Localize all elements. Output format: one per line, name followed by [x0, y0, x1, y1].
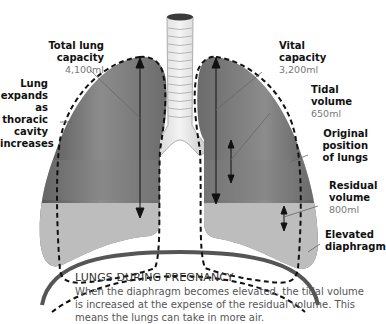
label-line: Original	[323, 128, 368, 139]
label-line: Residual	[329, 180, 377, 191]
left-lung	[30, 50, 170, 283]
residual-volume-label: Residual volume 800ml	[329, 180, 372, 216]
label-line: capacity	[279, 52, 326, 63]
label-line: position	[322, 140, 368, 151]
caption-body: When the diaphragm becomes elevated, the…	[75, 285, 375, 324]
vital-capacity-label: Vital capacity 3,200ml	[279, 40, 359, 76]
residual-volume-value: 800ml	[329, 204, 372, 216]
total-lung-capacity-value: 4,100ml	[20, 64, 104, 76]
label-line: expands as	[1, 90, 48, 113]
caption-title: LUNGS DURING PREGNANCY	[75, 271, 375, 285]
vital-capacity-value: 3,200ml	[279, 64, 359, 76]
label-line: Vital	[279, 40, 305, 51]
label-line: increases	[0, 138, 54, 149]
label-line: Lung	[20, 78, 48, 89]
original-position-label: Original position of lungs	[310, 128, 368, 164]
label-line: diaphragm	[325, 241, 386, 252]
label-line: Elevated	[325, 229, 374, 240]
label-line: Tidal	[311, 84, 339, 95]
tidal-volume-label: Tidal volume 650ml	[311, 84, 371, 120]
label-line: of lungs	[323, 152, 368, 163]
label-line: capacity	[57, 52, 104, 63]
label-line: thoracic	[2, 114, 48, 125]
label-line: volume	[329, 192, 370, 203]
total-lung-capacity-label: Total lung capacity 4,100ml	[20, 40, 104, 76]
elevated-diaphragm-label: Elevated diaphragm	[325, 229, 372, 253]
lung-expands-label: Lung expands as thoracic cavity increase…	[0, 78, 48, 150]
caption: LUNGS DURING PREGNANCY When the diaphrag…	[75, 271, 375, 324]
tidal-volume-value: 650ml	[311, 108, 371, 120]
label-line: Total lung	[48, 40, 104, 51]
label-line: volume	[311, 96, 352, 107]
label-line: cavity	[14, 126, 48, 137]
